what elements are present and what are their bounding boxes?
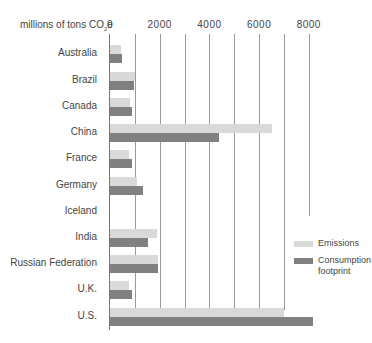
legend: Emissions Consumption footprint: [294, 238, 372, 283]
legend-item-emissions: Emissions: [294, 238, 372, 249]
gridline: [160, 34, 161, 310]
emissions-bar: [110, 177, 137, 186]
x-tick-label: 6000: [247, 19, 271, 30]
category-label: Iceland: [65, 205, 97, 216]
consumption-bar: [110, 238, 148, 247]
emissions-bar: [110, 124, 272, 133]
emissions-bar: [110, 150, 129, 159]
consumption-bar: [110, 186, 143, 195]
category-label: Australia: [58, 47, 97, 58]
consumption-bar: [110, 81, 134, 90]
gridline: [234, 34, 235, 310]
category-label: U.S.: [78, 310, 97, 321]
consumption-bar: [110, 264, 158, 273]
gridline: [284, 34, 285, 310]
emissions-bar: [110, 229, 157, 238]
x-tick-label: 8000: [297, 19, 321, 30]
consumption-bar: [110, 290, 132, 299]
legend-label: Consumption footprint: [318, 255, 372, 277]
category-label: Germany: [56, 179, 97, 190]
category-label: Russian Federation: [10, 257, 97, 268]
category-label: Brazil: [72, 74, 97, 85]
emissions-bar: [110, 72, 135, 81]
gridline: [309, 34, 310, 216]
consumption-bar: [110, 159, 132, 168]
legend-label: Emissions: [318, 238, 372, 249]
consumption-bar: [110, 133, 219, 142]
legend-item-consumption: Consumption footprint: [294, 255, 372, 277]
emissions-bar: [110, 45, 121, 54]
consumption-bar: [110, 107, 132, 116]
category-label: India: [75, 231, 97, 242]
emissions-bar: [110, 255, 158, 264]
category-label: Canada: [62, 100, 97, 111]
emissions-bar: [110, 308, 284, 317]
emissions-bar: [110, 98, 130, 107]
consumption-bar: [110, 317, 313, 326]
consumption-swatch: [294, 258, 313, 264]
x-tick-label: 0: [107, 19, 113, 30]
x-axis-unit-label: millions of tons CO2e: [20, 19, 113, 32]
category-label: France: [66, 152, 97, 163]
gridline: [209, 34, 210, 310]
x-tick-label: 4000: [197, 19, 221, 30]
category-label: U.K.: [78, 283, 97, 294]
emissions-swatch: [294, 241, 313, 247]
category-label: China: [71, 126, 97, 137]
gridline: [259, 34, 260, 310]
gridline: [185, 34, 186, 310]
unit-text: millions of tons CO: [20, 19, 104, 30]
x-tick-label: 2000: [148, 19, 172, 30]
emissions-bar: [110, 281, 129, 290]
consumption-bar: [110, 54, 122, 63]
